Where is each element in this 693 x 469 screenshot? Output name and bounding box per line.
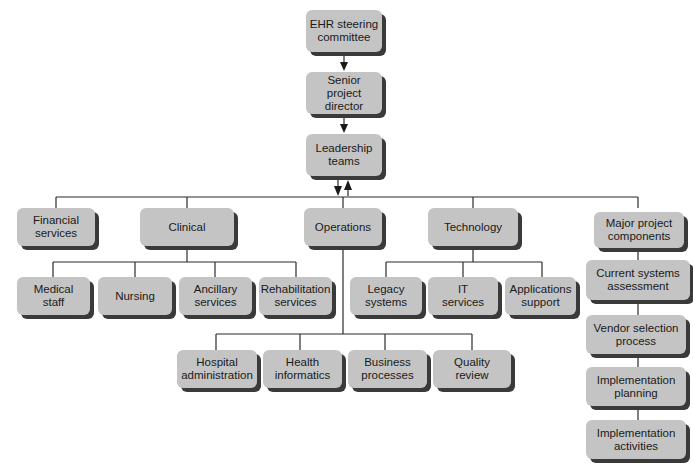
node-label: Legacy — [365, 283, 407, 296]
node-label: staff — [34, 296, 74, 309]
node-technology: Technology — [428, 208, 518, 246]
node-label: teams — [316, 155, 373, 168]
node-label: Implementation — [597, 427, 676, 440]
node-current-systems-assessment: Current systemsassessment — [586, 260, 690, 300]
node-label: Senior project — [309, 74, 379, 100]
node-label: committee — [310, 31, 378, 44]
node-label: Ancillary — [194, 283, 237, 296]
node-ehr-steering-committee: EHR steeringcommittee — [306, 10, 382, 52]
node-rehabilitation-services: Rehabilitationservices — [259, 277, 332, 315]
node-vendor-selection-process: Vendor selectionprocess — [586, 315, 686, 354]
node-clinical: Clinical — [140, 208, 234, 246]
org-chart: EHR steeringcommittee Senior projectdire… — [0, 0, 693, 469]
node-quality-review: Qualityreview — [433, 350, 511, 388]
node-label: services — [33, 227, 79, 240]
node-financial-services: Financialservices — [17, 208, 95, 246]
node-label: informatics — [275, 369, 331, 382]
node-label: processes — [361, 369, 413, 382]
node-ancillary-services: Ancillaryservices — [179, 277, 252, 315]
node-label: Quality — [454, 356, 490, 369]
node-label: support — [509, 296, 571, 309]
node-label: Financial — [33, 214, 79, 227]
node-label: Hospital — [181, 356, 253, 369]
node-major-project-components: Major projectcomponents — [594, 212, 684, 248]
node-label: Vendor selection — [593, 322, 678, 335]
node-label: Medical — [34, 283, 74, 296]
node-label: Current systems — [596, 267, 680, 280]
node-operations: Operations — [304, 208, 382, 246]
node-label: systems — [365, 296, 407, 309]
node-label: services — [261, 296, 331, 309]
node-health-informatics: Healthinformatics — [263, 350, 342, 388]
node-label: Technology — [444, 221, 502, 234]
node-label: process — [593, 335, 678, 348]
node-label: Leadership — [316, 142, 373, 155]
node-hospital-administration: Hospitaladministration — [177, 350, 257, 388]
node-label: assessment — [596, 280, 680, 293]
node-label: Applications — [509, 283, 571, 296]
node-legacy-systems: Legacysystems — [350, 277, 422, 315]
node-label: administration — [181, 369, 253, 382]
node-label: components — [606, 230, 672, 243]
node-label: Implementation — [597, 374, 676, 387]
node-label: director — [309, 100, 379, 113]
node-label: Major project — [606, 217, 672, 230]
node-medical-staff: Medicalstaff — [17, 277, 90, 315]
node-label: Operations — [315, 221, 371, 234]
node-nursing: Nursing — [98, 277, 172, 315]
node-implementation-activities: Implementationactivities — [586, 420, 686, 459]
node-leadership-teams: Leadershipteams — [306, 134, 382, 176]
node-it-services: ITservices — [428, 277, 498, 315]
node-label: EHR steering — [310, 18, 378, 31]
node-label: Health — [275, 356, 331, 369]
node-label: Business — [361, 356, 413, 369]
node-implementation-planning: Implementationplanning — [586, 367, 686, 406]
node-label: review — [454, 369, 490, 382]
node-label: IT — [442, 283, 484, 296]
node-applications-support: Applicationssupport — [505, 277, 576, 315]
node-label: Nursing — [115, 290, 155, 303]
node-label: Clinical — [168, 221, 205, 234]
node-label: services — [442, 296, 484, 309]
node-business-processes: Businessprocesses — [348, 350, 427, 388]
node-senior-project-director: Senior projectdirector — [306, 72, 382, 114]
node-label: planning — [597, 387, 676, 400]
node-label: Rehabilitation — [261, 283, 331, 296]
node-label: activities — [597, 440, 676, 453]
node-label: services — [194, 296, 237, 309]
